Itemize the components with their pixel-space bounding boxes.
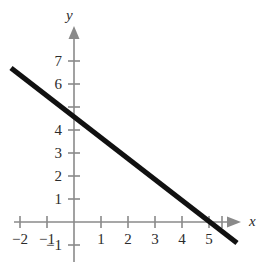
x-tick-label-3: 3 <box>148 232 162 247</box>
y-axis-label: y <box>66 8 73 23</box>
y-axis-arrowhead <box>69 26 80 39</box>
x-tick-label-5: 5 <box>202 232 216 247</box>
x-tick-label-2: 2 <box>121 232 135 247</box>
y-tick-label--1: −1 <box>38 238 62 253</box>
y-tick-label-6: 6 <box>44 77 62 92</box>
y-tick-label-1: 1 <box>44 192 62 207</box>
x-axis-arrowhead <box>227 217 241 228</box>
y-tick-label-7: 7 <box>44 54 62 69</box>
y-tick-label-2: 2 <box>44 169 62 184</box>
x-tick-label-4: 4 <box>175 232 189 247</box>
x-tick-label--2: −2 <box>8 232 32 247</box>
x-axis-label: x <box>249 214 256 229</box>
x-tick-label-1: 1 <box>94 232 108 247</box>
y-tick-label-4: 4 <box>44 123 62 138</box>
y-tick-label-3: 3 <box>44 146 62 161</box>
graph-figure: −2 −1 1 2 3 4 5 −1 1 2 3 4 6 7 x y <box>0 0 267 273</box>
